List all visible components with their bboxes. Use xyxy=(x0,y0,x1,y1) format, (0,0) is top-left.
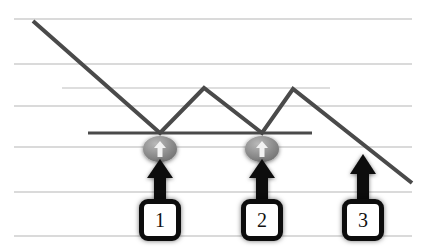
marker-label: 2 xyxy=(257,210,267,230)
price-line xyxy=(33,21,412,183)
marker-box-1[interactable]: 1 xyxy=(139,199,181,241)
marker-box-3[interactable]: 3 xyxy=(342,199,384,241)
signal-badge-1[interactable] xyxy=(143,136,177,162)
signal-badge-2[interactable] xyxy=(245,136,279,162)
marker-label: 3 xyxy=(358,210,368,230)
up-arrow-icon xyxy=(249,159,275,200)
callout-arrow-2 xyxy=(249,159,275,200)
chart-canvas: 1 2 3 xyxy=(0,0,422,252)
callout-arrow-1 xyxy=(147,159,173,200)
up-arrow-icon xyxy=(350,154,376,200)
marker-box-2[interactable]: 2 xyxy=(241,199,283,241)
marker-label: 1 xyxy=(155,210,165,230)
up-arrow-icon xyxy=(147,159,173,200)
callout-arrow-3 xyxy=(350,154,376,200)
